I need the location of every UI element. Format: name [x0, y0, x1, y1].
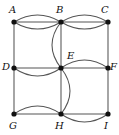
vertex-label-c: C	[101, 5, 109, 15]
edge-g-h-2	[14, 106, 61, 114]
vertex-d	[11, 65, 16, 70]
vertex-a	[11, 19, 16, 24]
vertex-g	[11, 111, 16, 116]
vertex-h	[58, 111, 63, 116]
edge-a-b-3	[14, 22, 61, 29]
vertex-c	[105, 19, 110, 24]
vertex-b	[58, 19, 63, 24]
edge-b-e-2	[52, 22, 61, 68]
edge-b-c-2	[61, 15, 108, 22]
vertex-e	[58, 65, 63, 70]
graph-canvas	[0, 0, 119, 135]
vertex-label-b: B	[56, 5, 63, 15]
edge-d-e-2	[14, 68, 61, 76]
vertex-label-e: E	[67, 51, 74, 61]
vertex-i	[105, 111, 110, 116]
vertex-label-i: I	[104, 121, 108, 131]
vertex-label-h: H	[55, 121, 64, 131]
vertex-label-g: G	[9, 121, 17, 131]
edge-a-b-2	[14, 15, 61, 22]
edge-e-h-2	[61, 68, 70, 114]
vertex-label-f: F	[110, 62, 117, 72]
edge-h-i-2	[61, 114, 108, 122]
vertex-label-a: A	[9, 5, 16, 15]
edge-e-f-2	[61, 60, 108, 68]
multigraph-figure: ABCDEFGHI	[0, 0, 119, 135]
edge-b-c-3	[61, 22, 108, 29]
vertex-label-d: D	[2, 62, 10, 72]
